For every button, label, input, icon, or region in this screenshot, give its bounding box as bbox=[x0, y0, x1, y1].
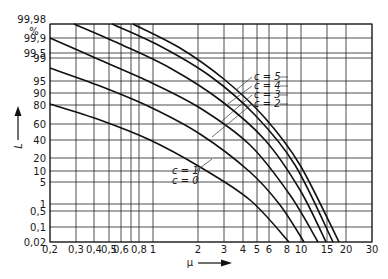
y-tick-label: 0,5 bbox=[30, 206, 46, 217]
y-axis-title: L bbox=[13, 106, 24, 149]
x-tick-label: 0,3 bbox=[68, 244, 84, 255]
x-tick-label: 3 bbox=[221, 244, 227, 255]
curve-c0 bbox=[50, 104, 289, 242]
y-tick-label: 10 bbox=[33, 166, 46, 177]
y-tick-label: 60 bbox=[33, 119, 46, 130]
x-axis-title: μ bbox=[187, 257, 232, 268]
x-tick-label: 0,4 bbox=[86, 244, 102, 255]
y-unit-label: % bbox=[29, 26, 39, 37]
y-tick-label: 99 bbox=[33, 53, 46, 64]
x-tick-label: 15 bbox=[321, 244, 334, 255]
y-tick-label: 90 bbox=[33, 88, 46, 99]
y-tick-label: 20 bbox=[33, 153, 46, 164]
x-tick-label: 5 bbox=[254, 244, 260, 255]
curves bbox=[50, 24, 339, 242]
y-tick-label: 0,1 bbox=[30, 222, 46, 233]
curve-label: c = 2 bbox=[254, 98, 281, 109]
y-tick-label: 95 bbox=[33, 76, 46, 87]
chart: 99,9899,999,59995908060402010510,50,10,0… bbox=[0, 0, 388, 279]
x-tick-label: 8 bbox=[284, 244, 290, 255]
x-tick-label: 0,8 bbox=[131, 244, 147, 255]
curve-c3 bbox=[74, 24, 326, 242]
x-tick-label: 0,2 bbox=[42, 244, 58, 255]
x-tick-label: 1 bbox=[150, 244, 156, 255]
x-tick-label: 0,6 bbox=[113, 244, 129, 255]
curve-label: c = 0 bbox=[172, 175, 199, 186]
arrowhead-up-icon bbox=[15, 106, 22, 116]
x-tick-label: 2 bbox=[195, 244, 201, 255]
y-axis-label: L bbox=[13, 143, 24, 149]
y-tick-label: 80 bbox=[33, 100, 46, 111]
x-axis-ticks: 0,20,30,40,50,60,8123456810152030 bbox=[42, 244, 378, 255]
x-axis-label: μ bbox=[187, 257, 194, 268]
y-tick-label: 40 bbox=[33, 135, 46, 146]
x-tick-label: 4 bbox=[240, 244, 246, 255]
x-tick-label: 6 bbox=[266, 244, 272, 255]
y-tick-label: 99,98 bbox=[17, 14, 46, 25]
y-tick-label: 5 bbox=[40, 177, 46, 188]
arrowhead-right-icon bbox=[221, 260, 232, 267]
x-tick-label: 30 bbox=[366, 244, 379, 255]
x-tick-label: 10 bbox=[295, 244, 308, 255]
leader-line bbox=[225, 86, 252, 106]
y-axis-ticks: 99,9899,999,59995908060402010510,50,10,0… bbox=[17, 14, 46, 248]
x-tick-label: 20 bbox=[340, 244, 353, 255]
